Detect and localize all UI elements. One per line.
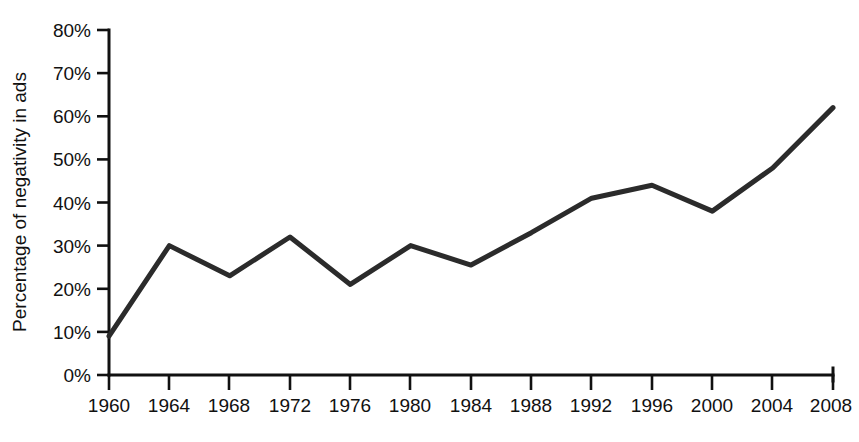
y-axis-title: Percentage of negativity in ads [9, 72, 30, 332]
x-tick-label-1984: 1984 [450, 395, 493, 416]
x-tick-label-2000: 2000 [691, 395, 733, 416]
y-tick-label-0: 0% [64, 365, 92, 386]
x-tick-label-1972: 1972 [269, 395, 311, 416]
x-tick-label-1980: 1980 [389, 395, 431, 416]
x-tick-label-1968: 1968 [208, 395, 250, 416]
y-tick-label-10: 10% [53, 322, 91, 343]
y-tick-label-30: 30% [53, 236, 91, 257]
x-tick-label-2004: 2004 [751, 395, 794, 416]
x-tick-label-1988: 1988 [510, 395, 552, 416]
y-tick-label-70: 70% [53, 63, 91, 84]
x-tick-label-2008: 2008 [810, 395, 852, 416]
chart-container: Percentage of negativity in ads 80% 70% … [0, 0, 859, 442]
y-tick-label-80: 80% [53, 20, 91, 41]
x-tick-label-1976: 1976 [329, 395, 371, 416]
x-tick-label-1960: 1960 [88, 395, 130, 416]
y-tick-label-20: 20% [53, 279, 91, 300]
y-tick-label-60: 60% [53, 106, 91, 127]
x-tick-label-1992: 1992 [570, 395, 612, 416]
y-axis-tick-labels: 80% 70% 60% 50% 40% 30% 20% 10% 0% [53, 20, 91, 386]
x-tick-label-1964: 1964 [148, 395, 191, 416]
y-tick-label-40: 40% [53, 193, 91, 214]
y-tick-label-50: 50% [53, 149, 91, 170]
line-chart: Percentage of negativity in ads 80% 70% … [0, 0, 859, 442]
x-tick-label-1996: 1996 [631, 395, 673, 416]
